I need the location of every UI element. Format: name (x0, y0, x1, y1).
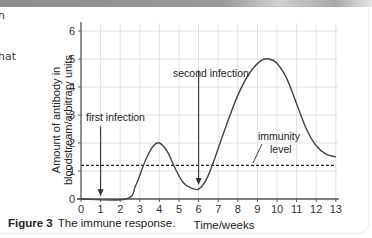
first-infection-arrowhead (98, 189, 104, 196)
svg-text:0: 0 (78, 203, 84, 215)
svg-text:10: 10 (271, 203, 283, 215)
second-infection-arrowhead (196, 178, 202, 185)
svg-text:8: 8 (235, 203, 241, 215)
svg-text:6: 6 (69, 25, 75, 37)
svg-text:13: 13 (330, 203, 342, 215)
immunity-label-line2: level (270, 143, 292, 155)
y-axis-label: Amount of antibody in (50, 67, 62, 173)
figure-caption-text: The immune response. (58, 217, 176, 229)
svg-text:5: 5 (176, 203, 182, 215)
chart-annotations: first infection second infection immunit… (86, 67, 301, 196)
x-axis-label: Time/weeks (194, 219, 255, 231)
svg-text:2: 2 (117, 203, 123, 215)
immune-response-chart: 0123456789101112130123456 Amount of anti… (0, 0, 372, 238)
second-infection-label: second infection (173, 67, 249, 79)
svg-text:9: 9 (254, 203, 260, 215)
svg-text:6: 6 (196, 203, 202, 215)
figure-label: Figure 3 (8, 217, 53, 229)
svg-text:7: 7 (215, 203, 221, 215)
svg-text:1: 1 (98, 203, 104, 215)
svg-text:0: 0 (69, 193, 75, 205)
svg-text:3: 3 (137, 203, 143, 215)
svg-text:11: 11 (291, 203, 302, 215)
y-axis-label-line2: bloodstream/arbitrary units (62, 54, 74, 185)
first-infection-label: first infection (86, 111, 145, 123)
svg-text:4: 4 (156, 203, 162, 215)
immunity-label: immunity (258, 130, 301, 142)
svg-text:12: 12 (310, 203, 322, 215)
figure-caption: Figure 3The immune response. (8, 217, 175, 229)
